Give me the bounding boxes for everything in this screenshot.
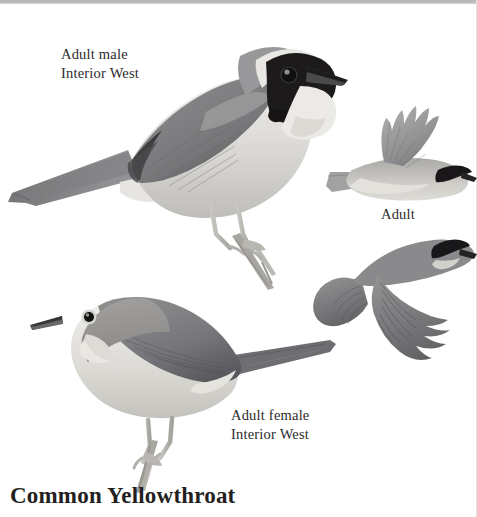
figure-adult-female-perched xyxy=(30,297,336,494)
female-leg-front xyxy=(160,418,172,458)
label-adult-male-line2: Interior West xyxy=(61,64,139,83)
label-adult-flight: Adult xyxy=(381,205,415,224)
figure-adult-flight-lower xyxy=(313,239,477,360)
field-guide-plate: Adult male Interior West Adult Adult fem… xyxy=(0,0,477,517)
label-adult-female-line2: Interior West xyxy=(231,425,310,444)
figure-adult-male-perched xyxy=(8,47,348,290)
label-adult-female: Adult female Interior West xyxy=(231,406,310,444)
plate-title: Common Yellowthroat xyxy=(10,483,235,509)
female-eye xyxy=(84,312,94,322)
label-adult-female-line1: Adult female xyxy=(231,406,310,425)
label-adult-male-line1: Adult male xyxy=(61,45,139,64)
figure-adult-flight-upper xyxy=(326,106,477,201)
flight-lower-tail xyxy=(313,277,368,326)
flight-lower-wing xyxy=(372,276,450,360)
flight-upper-wing xyxy=(381,106,439,166)
label-adult-male: Adult male Interior West xyxy=(61,45,139,83)
